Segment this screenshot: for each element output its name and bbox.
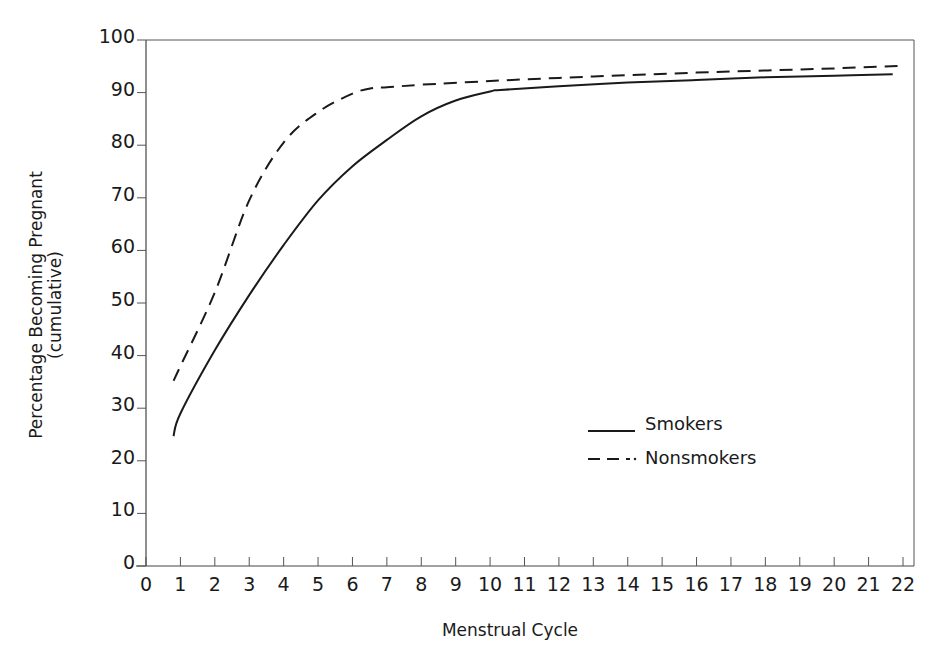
y-tick-label: 10	[111, 498, 135, 520]
y-axis-title: Percentage Becoming Pregnant (cumulative…	[26, 171, 65, 439]
y-tick-label: 40	[111, 341, 135, 363]
x-tick-label: 22	[891, 573, 915, 595]
chart-canvas: 0102030405060708090100 01234567891011121…	[0, 0, 939, 668]
y-tick-label: 60	[111, 235, 135, 257]
x-tick-label: 19	[788, 573, 812, 595]
x-tick-label: 17	[719, 573, 743, 595]
x-tick-label: 14	[616, 573, 640, 595]
x-tick-label: 20	[822, 573, 846, 595]
y-tick-label: 90	[111, 78, 135, 100]
legend-nonsmokers-label: Nonsmokers	[645, 447, 756, 468]
series-line-smokers	[174, 74, 893, 436]
x-tick-label: 15	[650, 573, 674, 595]
x-tick-label: 13	[581, 573, 605, 595]
x-tick-label: 12	[547, 573, 571, 595]
x-tick-label: 6	[346, 573, 358, 595]
x-tick-label: 10	[478, 573, 502, 595]
plot-area	[136, 40, 914, 566]
series-line-nonsmokers	[174, 66, 904, 381]
x-tick-label: 1	[174, 573, 186, 595]
y-tick-label: 80	[111, 130, 135, 152]
x-tick-label: 5	[312, 573, 324, 595]
x-axis-ticks: 012345678910111213141516171819202122	[140, 557, 915, 595]
x-tick-label: 2	[209, 573, 221, 595]
x-axis-title: Menstrual Cycle	[442, 620, 578, 640]
x-tick-label: 3	[243, 573, 255, 595]
legend: Smokers Nonsmokers	[588, 413, 756, 468]
y-axis-ticks: 0102030405060708090100	[99, 25, 146, 573]
x-tick-label: 0	[140, 573, 152, 595]
legend-smokers-label: Smokers	[645, 413, 723, 434]
y-tick-label: 50	[111, 288, 135, 310]
y-axis-title-line2: (cumulative)	[45, 251, 65, 359]
x-tick-label: 8	[415, 573, 427, 595]
legend-nonsmokers-dot	[634, 458, 636, 460]
y-axis-title-line1: Percentage Becoming Pregnant	[26, 171, 46, 439]
x-tick-label: 9	[450, 573, 462, 595]
series-layer	[174, 66, 904, 436]
x-tick-label: 7	[381, 573, 393, 595]
y-tick-label: 30	[111, 393, 135, 415]
x-tick-label: 11	[512, 573, 536, 595]
y-tick-label: 0	[123, 551, 135, 573]
y-tick-label: 70	[111, 183, 135, 205]
x-tick-label: 21	[856, 573, 880, 595]
x-tick-label: 16	[684, 573, 708, 595]
y-tick-label: 20	[111, 446, 135, 468]
x-tick-label: 18	[753, 573, 777, 595]
y-tick-label: 100	[99, 25, 135, 47]
x-tick-label: 4	[278, 573, 290, 595]
